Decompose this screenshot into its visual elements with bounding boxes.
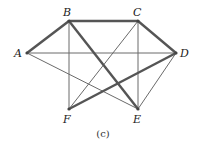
edge-d-e (138, 53, 176, 109)
edge-a-b (27, 21, 69, 53)
edges-group (27, 21, 176, 109)
node-label-a: A (13, 47, 22, 60)
node-e (136, 107, 139, 110)
node-label-f: F (62, 113, 71, 126)
node-f (67, 107, 70, 110)
node-label-b: B (62, 6, 71, 19)
node-label-d: D (179, 47, 189, 60)
node-label-c: C (133, 6, 142, 19)
nodes-group: ABCDFE (13, 6, 189, 126)
node-d (174, 51, 177, 54)
edge-f-d (69, 53, 176, 109)
node-b (67, 19, 70, 22)
node-label-e: E (132, 113, 141, 126)
node-a (25, 51, 28, 54)
node-c (136, 19, 139, 22)
edge-c-d (138, 21, 176, 53)
figure-caption: (c) (96, 128, 110, 139)
graph-diagram: ABCDFE (c) (0, 0, 200, 142)
